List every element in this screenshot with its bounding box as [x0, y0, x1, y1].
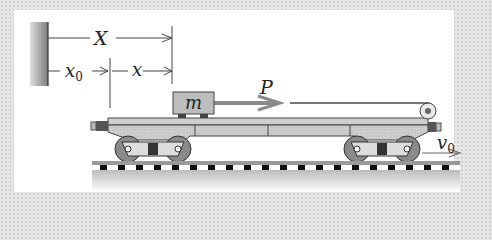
- label-m-text: m: [185, 92, 202, 113]
- label-v0-subscript: 0: [447, 142, 455, 156]
- label-x0-subscript: 0: [75, 70, 83, 84]
- label-P-text: P: [260, 76, 273, 98]
- label-m: m: [185, 94, 202, 112]
- label-x: x: [132, 61, 142, 79]
- label-x0-text: x: [65, 60, 75, 81]
- label-P: P: [260, 78, 273, 97]
- label-X: X: [94, 29, 108, 48]
- label-v0: v0: [437, 134, 455, 155]
- fixed-wall: [30, 22, 48, 86]
- label-X-text: X: [94, 27, 108, 49]
- label-x0: x0: [65, 62, 83, 83]
- label-v0-text: v: [437, 132, 447, 153]
- label-x-text: x: [132, 59, 142, 80]
- track: [92, 161, 460, 192]
- flatcar-diagram: [0, 0, 492, 199]
